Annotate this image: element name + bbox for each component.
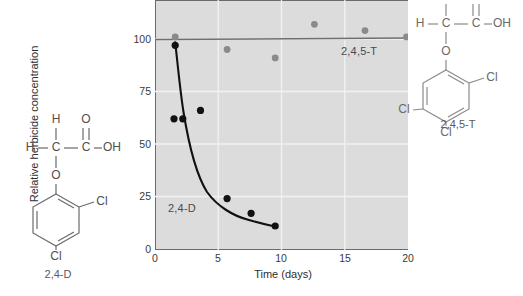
structure-caption-24d: 2,4-D: [18, 268, 98, 280]
datapoint: [224, 195, 231, 202]
atom-label-c: C: [442, 16, 451, 30]
atom-label-o: O: [471, 0, 480, 2]
datapoint: [224, 46, 231, 53]
atom-label-h: H: [416, 16, 425, 30]
datapoint: [170, 115, 177, 122]
atom-label-c: C: [52, 140, 61, 154]
x-tick-label: 15: [332, 253, 358, 264]
atom-label-cl: Cl: [50, 249, 61, 263]
figure-root: 0 25 50 75 100 0 5 10 15 20 Time (days) …: [0, 0, 523, 296]
x-tick-label: 10: [268, 253, 294, 264]
datapoint: [272, 55, 279, 62]
y-tick-label: 100: [121, 34, 151, 45]
atom-label-oh: OH: [103, 140, 121, 154]
atom-label-cl: Cl: [96, 194, 107, 208]
atom-label-h: H: [52, 112, 61, 126]
x-tick-label: 0: [142, 253, 168, 264]
atom-label-oh: OH: [493, 16, 511, 30]
datapoint: [272, 222, 279, 229]
atom-label-c: C: [82, 140, 91, 154]
datapoint: [362, 27, 369, 34]
atom-label-cl: Cl: [398, 102, 409, 116]
x-tick-label: 5: [205, 253, 231, 264]
series-annotation-245t: 2,4,5-T: [341, 45, 377, 57]
datapoint: [172, 42, 179, 49]
atom-label-o: O: [51, 168, 60, 182]
chemical-structure-24d: H O H C C OH O Cl Cl: [8, 110, 128, 270]
atom-label-cl: Cl: [486, 70, 497, 84]
atom-label-h: H: [442, 0, 451, 2]
gridlines-vertical: [218, 0, 345, 250]
datapoint: [248, 210, 255, 217]
atom-label-h: H: [26, 140, 35, 154]
series-annotation-24d: 2,4-D: [168, 202, 196, 214]
atom-label-o: O: [81, 112, 90, 126]
datapoint: [197, 107, 204, 114]
x-tick-label: 20: [395, 253, 421, 264]
atom-label-c: C: [472, 16, 481, 30]
datapoint: [311, 21, 318, 28]
structure-caption-245t: 2,4,5-T: [418, 118, 498, 130]
datapoint: [172, 34, 179, 41]
structure-bonds: [33, 128, 102, 250]
datapoint: [179, 115, 186, 122]
y-tick-label: 75: [121, 86, 151, 97]
atom-label-o: O: [441, 44, 450, 58]
x-axis-title: Time (days): [218, 268, 348, 280]
